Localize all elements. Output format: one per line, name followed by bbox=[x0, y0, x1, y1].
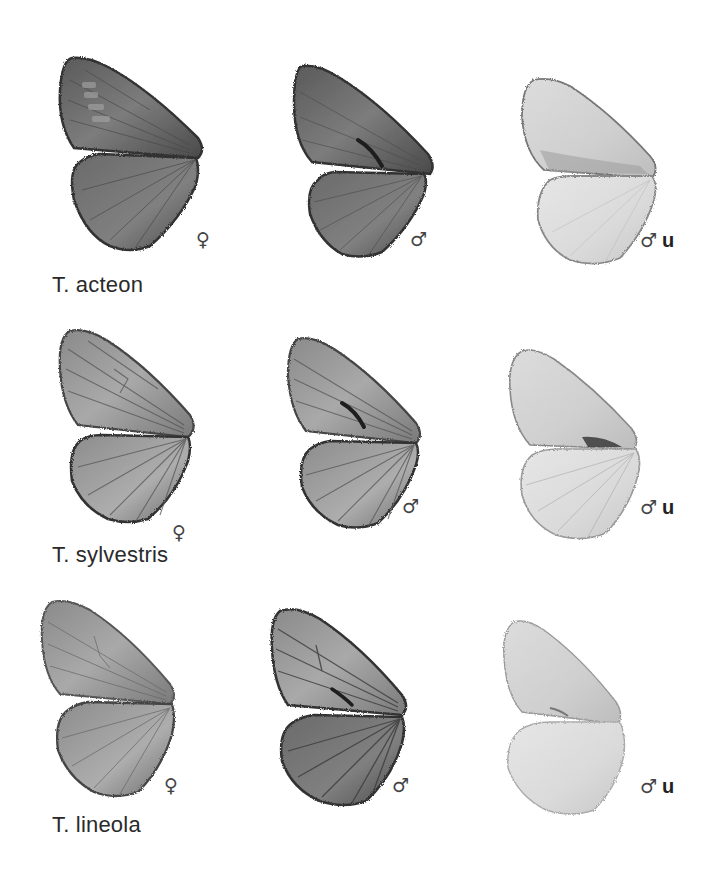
wing-illustration-sylvestris-male-underside bbox=[502, 345, 702, 555]
underside-marker: u bbox=[662, 775, 674, 797]
wing-illustration-lineola-male bbox=[268, 605, 468, 815]
wing-illustration-acteon-male-underside bbox=[510, 72, 710, 282]
male-underside-label: ♂u bbox=[640, 497, 674, 517]
underside-marker: u bbox=[662, 496, 674, 518]
male-symbol: ♂ bbox=[392, 776, 409, 795]
wing-illustration-sylvestris-female bbox=[48, 325, 248, 535]
underside-marker: u bbox=[662, 229, 674, 251]
female-symbol: ♀ bbox=[164, 776, 178, 795]
illustration-plate: ♀ ♂ ♂u T. acteon bbox=[0, 0, 711, 889]
wing-illustration-acteon-female bbox=[40, 50, 240, 260]
male-symbol: ♂ bbox=[410, 230, 427, 249]
female-symbol: ♀ bbox=[172, 523, 186, 542]
male-underside-label: ♂u bbox=[640, 776, 674, 796]
male-symbol: ♂ bbox=[402, 497, 419, 516]
wing-illustration-acteon-male bbox=[270, 62, 470, 272]
female-symbol: ♀ bbox=[196, 230, 210, 249]
species-label-sylvestris: T. sylvestris bbox=[52, 542, 168, 568]
male-underside-label: ♂u bbox=[640, 230, 674, 250]
species-label-lineola: T. lineola bbox=[52, 812, 141, 838]
species-label-acteon: T. acteon bbox=[52, 272, 143, 298]
wing-illustration-lineola-female bbox=[38, 596, 238, 806]
wing-illustration-sylvestris-male bbox=[276, 333, 476, 543]
